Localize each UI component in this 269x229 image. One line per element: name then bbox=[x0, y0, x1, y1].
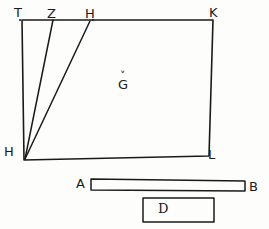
label-vertex-H-bottom: H bbox=[4, 145, 14, 158]
label-point-H-top: H bbox=[85, 7, 95, 20]
label-bar-endpoint-B: B bbox=[249, 180, 258, 193]
label-point-Z: Z bbox=[47, 7, 56, 20]
figure-root: T Z H K ˅ G H L A B D bbox=[0, 0, 269, 229]
label-box-D: D bbox=[158, 202, 168, 215]
label-vertex-T: T bbox=[14, 6, 22, 19]
box-D bbox=[143, 198, 214, 222]
label-interior-G: G bbox=[118, 78, 128, 91]
diagram-canvas bbox=[0, 0, 269, 229]
label-bar-endpoint-A: A bbox=[76, 177, 85, 190]
bar-A-B bbox=[91, 179, 245, 191]
tick-mark-T bbox=[19, 19, 21, 21]
line-Z-to-H bbox=[25, 20, 53, 159]
line-H-to-H bbox=[25, 21, 90, 159]
tick-mark-H bbox=[92, 19, 94, 21]
label-vertex-K: K bbox=[209, 6, 218, 19]
label-vertex-L: L bbox=[208, 148, 215, 161]
